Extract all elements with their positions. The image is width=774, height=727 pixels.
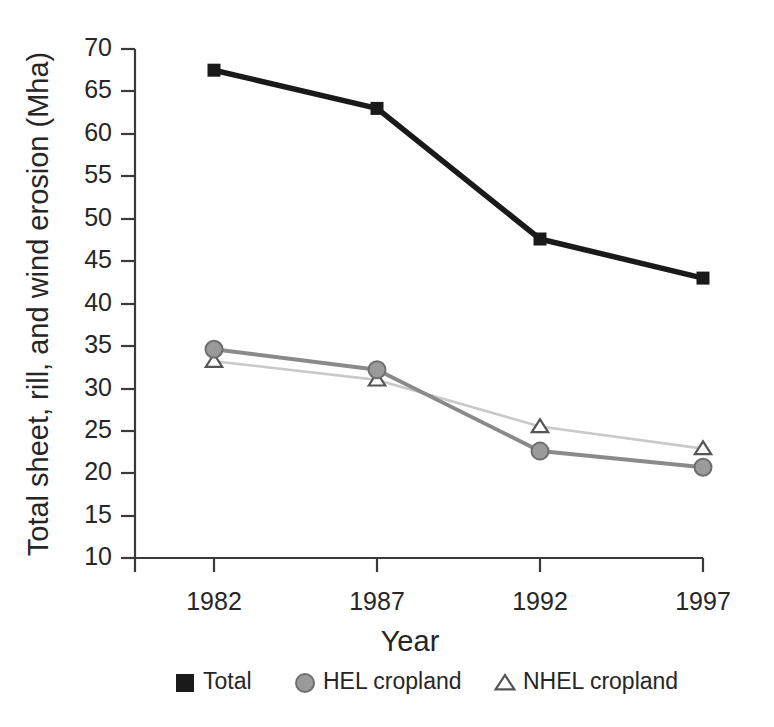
y-axis-title: Total sheet, rill, and wind erosion (Mha…: [22, 52, 54, 557]
data-point-hel-cropland-1982: [206, 341, 223, 358]
y-tick-label-30: 30: [84, 373, 112, 401]
y-tick-label-15: 15: [84, 500, 112, 528]
y-tick-label-40: 40: [84, 288, 112, 316]
legend-label: NHEL cropland: [523, 668, 678, 694]
y-tick-label-25: 25: [84, 415, 112, 443]
legend-label: HEL cropland: [323, 668, 462, 694]
x-tick-label-1987: 1987: [349, 587, 405, 615]
y-tick-label-60: 60: [84, 118, 112, 146]
x-axis-title: Year: [381, 625, 440, 657]
y-tick-label-50: 50: [84, 203, 112, 231]
data-point-hel-cropland-1987: [369, 361, 386, 378]
x-tick-label-1992: 1992: [512, 587, 568, 615]
legend-circle-icon: [296, 674, 314, 692]
chart-background: [0, 0, 774, 727]
legend-label: Total: [203, 668, 252, 694]
data-point-total-1997: [698, 273, 709, 284]
y-tick-label-10: 10: [84, 542, 112, 570]
data-point-hel-cropland-1992: [532, 443, 549, 460]
y-tick-label-45: 45: [84, 245, 112, 273]
x-tick-label-1997: 1997: [675, 587, 731, 615]
legend-item-nhel-cropland[interactable]: NHEL cropland: [496, 668, 679, 694]
data-point-total-1982: [209, 65, 220, 76]
y-tick-label-55: 55: [84, 160, 112, 188]
data-point-hel-cropland-1997: [695, 459, 712, 476]
data-point-total-1992: [535, 234, 546, 245]
y-tick-label-70: 70: [84, 33, 112, 61]
erosion-line-chart: Total sheet, rill, and wind erosion (Mha…: [0, 0, 774, 727]
chart-figure: Total sheet, rill, and wind erosion (Mha…: [0, 0, 774, 727]
y-tick-label-65: 65: [84, 75, 112, 103]
y-tick-label-20: 20: [84, 457, 112, 485]
data-point-total-1987: [372, 103, 383, 114]
x-tick-label-1982: 1982: [186, 587, 242, 615]
legend-square-icon: [177, 675, 193, 691]
y-tick-label-35: 35: [84, 330, 112, 358]
